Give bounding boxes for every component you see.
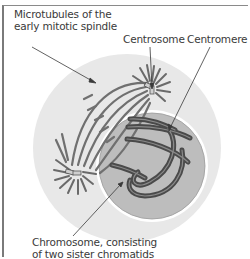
label-microtubules: Microtubules of the early mitotic spindl… bbox=[14, 8, 117, 32]
label-chromosome: Chromosome, consisting of two sister chr… bbox=[32, 236, 157, 259]
label-centromere: Centromere bbox=[187, 33, 247, 45]
label-centrosome: Centrosome bbox=[123, 33, 185, 45]
